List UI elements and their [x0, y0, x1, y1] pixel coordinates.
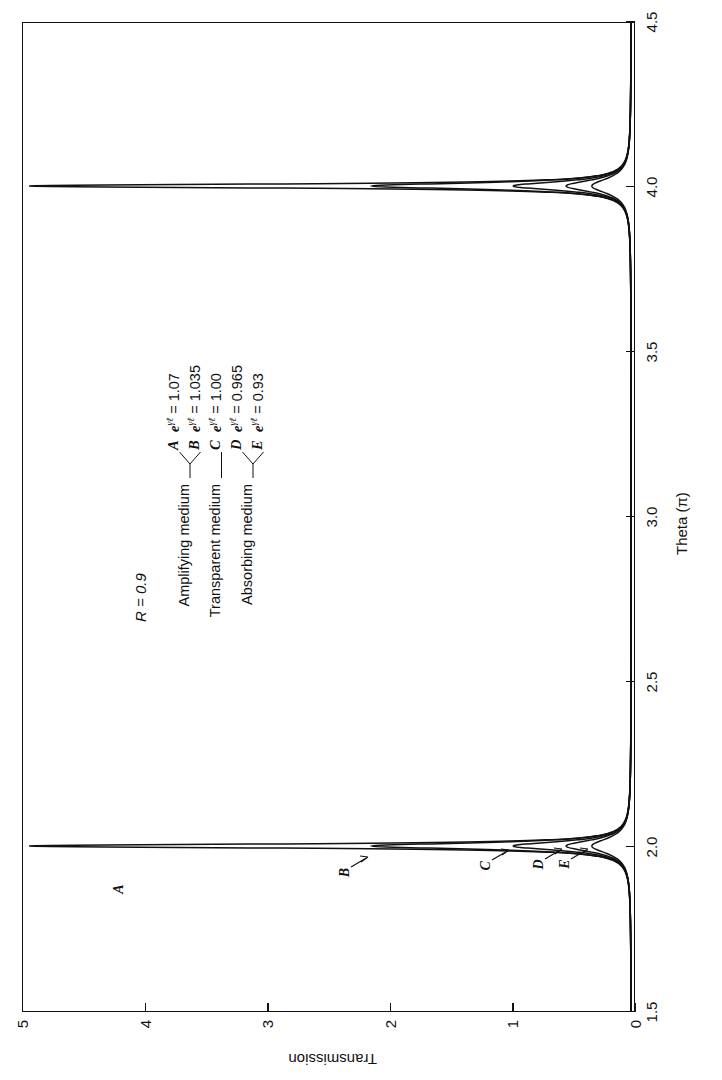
- callout-arrow-B: [349, 833, 383, 873]
- legend-equation-C: eγℓ = 1.00: [207, 373, 225, 432]
- x-tick: [626, 186, 635, 187]
- y-tick-label: 3: [259, 1020, 276, 1046]
- y-tick: [390, 1003, 391, 1012]
- y-tick: [635, 1003, 636, 1012]
- legend-equation-A: eγℓ = 1.07: [165, 373, 183, 432]
- y-tick-label: 1: [504, 1020, 521, 1046]
- callout-arrow-C: [490, 827, 524, 867]
- figure-canvas: 1.52.02.53.03.54.04.5 012345 Theta (π) T…: [0, 0, 722, 1080]
- x-tick-label: 4.0: [643, 177, 660, 198]
- legend-medium-label: Amplifying medium: [176, 484, 192, 607]
- legend-equation-E: eγℓ = 0.93: [249, 373, 267, 432]
- callout-arrow-E: [569, 825, 603, 865]
- y-tick-label: 2: [381, 1020, 398, 1046]
- legend: R = 0.9 Amplifying mediumAeγℓ = 1.07Beγℓ…: [132, 298, 277, 628]
- y-tick: [22, 1003, 23, 1012]
- x-tick-label: 2.0: [643, 837, 660, 858]
- legend-equation-B: eγℓ = 1.035: [186, 365, 204, 432]
- x-tick-label: 3.5: [643, 342, 660, 363]
- reflectivity-annotation: R = 0.9: [132, 298, 149, 628]
- legend-equation-D: eγℓ = 0.965: [228, 365, 246, 432]
- x-tick: [626, 516, 635, 517]
- y-tick-label: 0: [627, 1020, 644, 1046]
- legend-curve-id-E: E: [249, 440, 266, 450]
- x-tick-label: 1.5: [643, 1002, 660, 1023]
- y-axis-title: Transmission: [288, 1051, 377, 1068]
- x-tick-label: 3.0: [643, 507, 660, 528]
- x-tick-label: 2.5: [643, 672, 660, 693]
- x-tick: [626, 1011, 635, 1012]
- x-axis-title: Theta (π): [673, 492, 690, 555]
- x-tick: [626, 351, 635, 352]
- legend-medium-label: Absorbing medium: [239, 484, 255, 605]
- legend-curve-id-C: C: [207, 440, 224, 450]
- x-tick-label: 4.5: [643, 12, 660, 33]
- y-tick: [267, 1003, 268, 1012]
- x-tick: [626, 846, 635, 847]
- legend-entries: Amplifying mediumAeγℓ = 1.07Beγℓ = 1.035…: [165, 298, 277, 628]
- curve-callout-A: A: [111, 884, 127, 893]
- y-tick: [145, 1003, 146, 1012]
- legend-curve-id-B: B: [186, 440, 203, 450]
- x-tick: [626, 21, 635, 22]
- y-tick: [512, 1003, 513, 1012]
- legend-curve-id-D: D: [228, 440, 245, 450]
- x-tick: [626, 681, 635, 682]
- y-tick-label: 5: [14, 1020, 31, 1046]
- legend-curve-id-A: A: [165, 440, 182, 450]
- legend-medium-label: Transparent medium: [207, 484, 223, 617]
- y-tick-label: 4: [136, 1020, 153, 1046]
